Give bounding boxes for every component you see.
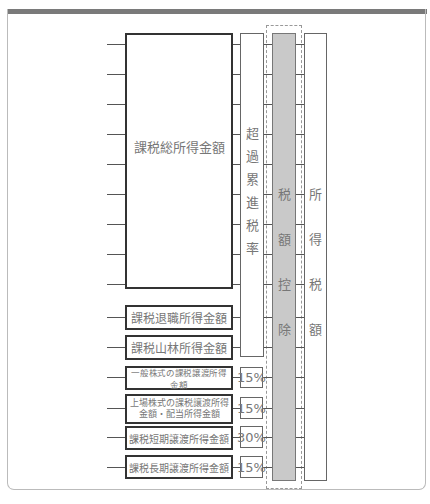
char: 額	[309, 307, 322, 352]
tick	[107, 377, 126, 378]
rate-box: 15%	[240, 456, 263, 478]
taxable-retirement-income-box: 課税退職所得金額	[125, 305, 233, 330]
short-term-transfer-income-label: 課税短期譲渡所得金額	[129, 431, 229, 446]
char: 率	[246, 237, 259, 260]
rate-value: 30%	[237, 430, 266, 445]
tick	[107, 408, 126, 409]
char: 所	[309, 172, 322, 217]
long-term-transfer-income-box: 課税長期譲渡所得金額	[125, 455, 233, 479]
char: 控	[278, 262, 291, 307]
char: 税	[246, 214, 259, 237]
tick	[107, 284, 126, 285]
char: 額	[278, 217, 291, 262]
rate-value: 15%	[237, 370, 266, 385]
listed-stock-dividend-income-box: 上場株式の課税譲渡所得 金額・配当所得金額	[125, 394, 233, 424]
tick	[107, 104, 126, 105]
tick	[107, 467, 126, 468]
char: 税	[309, 262, 322, 307]
tick	[107, 437, 126, 438]
char: 税	[278, 172, 291, 217]
char: 進	[246, 191, 259, 214]
listed-stock-label-line2: 金額・配当所得金額	[139, 409, 220, 420]
taxable-total-income-box: 課税総所得金額	[125, 33, 233, 289]
char: 得	[309, 217, 322, 262]
taxable-retirement-income-label: 課税退職所得金額	[131, 309, 227, 326]
tick	[107, 347, 126, 348]
tick	[107, 224, 126, 225]
rate-box: 15%	[240, 367, 263, 388]
tick	[107, 317, 126, 318]
tick	[107, 44, 126, 45]
tick	[107, 74, 126, 75]
tick	[107, 254, 126, 255]
general-stock-transfer-income-box: 一般株式の課税譲渡所得金額	[125, 366, 233, 390]
taxable-forest-income-label: 課税山林所得金額	[131, 339, 227, 356]
general-stock-transfer-income-label: 一般株式の課税譲渡所得金額	[127, 366, 231, 390]
char: 過	[246, 145, 259, 168]
listed-stock-label-line1: 上場株式の課税譲渡所得	[130, 398, 229, 409]
rate-box: 30%	[240, 426, 263, 448]
taxable-total-income-label: 課税総所得金額	[134, 137, 225, 156]
long-term-transfer-income-label: 課税長期譲渡所得金額	[129, 460, 229, 475]
taxable-forest-income-box: 課税山林所得金額	[125, 335, 233, 360]
income-tax-label: 所 得 税 額	[304, 172, 327, 352]
char: 超	[246, 122, 259, 145]
progressive-rate-label: 超 過 累 進 税 率	[240, 122, 264, 260]
rate-value: 15%	[237, 460, 266, 475]
tax-credit-label: 税 額 控 除	[272, 172, 296, 352]
char: 除	[278, 307, 291, 352]
tick	[107, 134, 126, 135]
char: 累	[246, 168, 259, 191]
rate-box: 15%	[240, 397, 263, 419]
tick	[107, 194, 126, 195]
rate-value: 15%	[237, 401, 266, 416]
tick	[107, 164, 126, 165]
short-term-transfer-income-box: 課税短期譲渡所得金額	[125, 426, 233, 450]
